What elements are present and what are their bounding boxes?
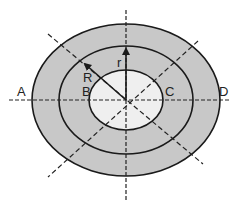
- label-B: B: [82, 84, 91, 99]
- label-r: r: [117, 55, 122, 70]
- label-D: D: [219, 84, 228, 99]
- diagram-svg: A B C D R r: [0, 0, 238, 211]
- concentric-ellipse-diagram: A B C D R r: [0, 0, 238, 211]
- label-A: A: [17, 84, 26, 99]
- label-R: R: [83, 70, 92, 85]
- label-C: C: [165, 84, 174, 99]
